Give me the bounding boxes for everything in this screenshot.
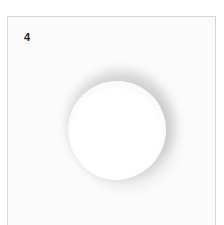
panel-number-label: 4 bbox=[24, 31, 30, 43]
figure-stage: 4 bbox=[0, 0, 224, 225]
white-circle-shape bbox=[70, 88, 162, 180]
figure-panel: 4 bbox=[7, 16, 216, 225]
